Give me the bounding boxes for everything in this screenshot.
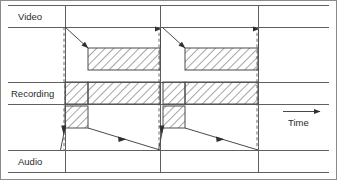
- video-block-2: [185, 48, 258, 70]
- time-axis-label: Time: [288, 117, 309, 128]
- recording-block-4: [185, 82, 258, 104]
- timing-diagram-figure: Video Recording Audio Time: [0, 0, 337, 180]
- recording-block-3: [163, 82, 185, 104]
- audio-block-2: [163, 106, 185, 128]
- timing-diagram-canvas: Video Recording Audio Time: [0, 0, 337, 180]
- video-track-label: Video: [18, 11, 42, 22]
- audio-block-1: [65, 106, 88, 128]
- recording-block-1: [65, 82, 88, 104]
- video-block-1: [88, 48, 160, 70]
- recording-block-2: [88, 82, 160, 104]
- audio-track-label: Audio: [18, 156, 42, 167]
- recording-track-label: Recording: [11, 88, 54, 99]
